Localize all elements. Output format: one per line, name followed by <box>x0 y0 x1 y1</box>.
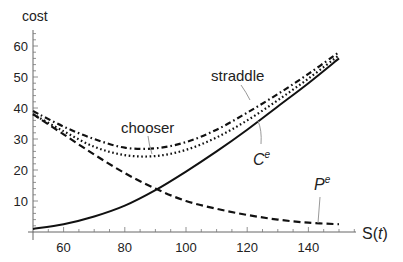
x-tick-label: 80 <box>118 240 132 255</box>
x-tick-label: 120 <box>236 240 258 255</box>
ce-label: Ce <box>253 149 271 168</box>
y-tick-label: 20 <box>14 163 28 178</box>
y-tick-label: 40 <box>14 101 28 116</box>
y-axis-label: cost <box>22 8 48 24</box>
x-ticks: 6080100120140 <box>48 227 354 255</box>
x-tick-label: 60 <box>56 240 70 255</box>
y-tick-label: 50 <box>14 70 28 85</box>
straddle-leader <box>241 85 250 100</box>
x-tick-label: 100 <box>175 240 197 255</box>
pe-leader <box>318 197 320 223</box>
pe-label: Pe <box>314 174 331 193</box>
ce-leader <box>258 121 261 144</box>
p-e-curve <box>33 114 339 224</box>
cost-chart: 102030405060 6080100120140 cost S(t) str… <box>0 0 403 262</box>
chooser-leader <box>148 136 152 154</box>
y-tick-label: 10 <box>14 194 28 209</box>
annotation-leaders <box>148 85 320 223</box>
series-group <box>33 52 339 229</box>
c-e-curve <box>33 58 339 229</box>
y-ticks: 102030405060 <box>14 34 38 226</box>
y-tick-label: 60 <box>14 39 28 54</box>
straddle-label: straddle <box>211 67 264 84</box>
y-tick-label: 30 <box>14 132 28 147</box>
chooser-label: chooser <box>121 119 174 136</box>
x-axis-label: S(t) <box>362 225 388 242</box>
x-tick-label: 140 <box>298 240 320 255</box>
straddle-curve <box>33 52 339 149</box>
chooser-curve <box>33 55 339 156</box>
